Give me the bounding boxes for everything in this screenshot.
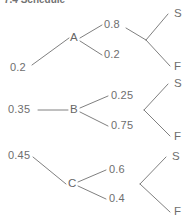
leaf-a-fail: F	[174, 61, 181, 72]
edge-c-s-leaf	[140, 157, 166, 184]
edge-c-f-leaf	[140, 184, 170, 212]
edge-a-s-leaf	[126, 28, 146, 40]
prob-b-f: 0.75	[111, 120, 133, 131]
prob-root-b: 0.35	[8, 104, 30, 115]
leaf-c-success: S	[172, 151, 180, 162]
prob-b-s: 0.25	[111, 90, 133, 101]
leaf-a-success: S	[174, 8, 182, 19]
prob-c-f: 0.4	[109, 193, 125, 204]
prob-root-a: 0.2	[10, 62, 26, 73]
node-c: C	[68, 178, 77, 189]
edge-c-s	[78, 170, 106, 182]
prob-root-c: 0.45	[8, 150, 30, 161]
node-a: A	[70, 32, 78, 43]
leaf-b-fail: F	[174, 131, 181, 142]
prob-a-s: 0.8	[104, 19, 120, 30]
edge-b-f	[80, 112, 108, 126]
edge-b-s-leaf	[144, 84, 168, 110]
leaf-b-success: S	[174, 78, 182, 89]
edge-a-s	[80, 25, 102, 38]
edge-root-a	[32, 38, 69, 65]
edge-a-f	[80, 41, 102, 55]
edge-b-s	[80, 96, 108, 108]
leaf-c-fail: F	[174, 206, 181, 217]
edge-a-s-leaf2	[146, 14, 168, 40]
prob-a-f: 0.2	[104, 49, 120, 60]
edge-c-f	[78, 186, 106, 199]
prob-c-s: 0.6	[109, 164, 125, 175]
edge-b-f-leaf	[144, 110, 170, 136]
edge-a-f-leaf	[146, 40, 170, 66]
edge-root-c	[33, 157, 66, 184]
node-b: B	[70, 104, 78, 115]
